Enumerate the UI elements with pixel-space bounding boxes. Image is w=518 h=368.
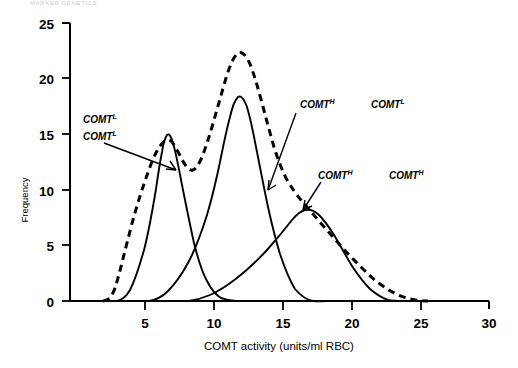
x-tick-label-5: 5 [141,316,149,331]
label-comt-h-right1: COMTH [318,169,353,181]
curve-comt-ll-solid [117,134,236,301]
label-comt-ll-line2-sup: L [112,130,116,137]
arrow-comt-hl [268,113,296,190]
chart-svg: 25 20 15 10 5 0 5 10 15 20 25 30 COMT ac… [0,0,518,368]
label-comt-h-right1-sup: H [347,169,353,176]
label-comt-h-right2-sup: H [418,169,424,176]
label-comt-h-middle: COMTH [300,98,335,110]
y-tick-label-20: 20 [39,72,54,87]
x-tick-label-25: 25 [413,316,429,331]
label-comt-ll-line1: COMTL [83,113,117,125]
label-comt-h-right2-text: COMT [389,170,419,181]
x-tick-label-15: 15 [275,316,291,331]
y-axis-title: Frequency [19,177,30,222]
arrow-comt-hl-head [268,180,276,190]
label-comt-h-right2: COMTH [389,169,424,181]
y-tick-labels: 25 20 15 10 5 0 [39,17,55,310]
y-tick-label-15: 15 [39,128,55,143]
figure-container: MARKER GENETICS 25 [0,0,518,368]
x-tick-label-30: 30 [481,316,496,331]
label-comt-h-right1-text: COMT [318,170,348,181]
x-tick-label-10: 10 [206,316,221,331]
y-tick-label-25: 25 [39,17,55,32]
label-comt-h-middle-sup: H [329,98,335,105]
label-comt-ll-line1-text: COMT [83,114,113,125]
label-comt-l-middle-text: COMT [371,99,401,110]
curves-group [103,52,428,301]
label-comt-h-middle-text: COMT [300,99,330,110]
curve-total-dashed [103,52,428,301]
arrow-comt-ll [104,143,176,170]
arrow-comt-hh [303,182,321,210]
curve-comt-hh-solid [189,210,403,301]
x-axis-title: COMT activity (units/ml RBC) [204,340,354,352]
label-comt-ll-line1-sup: L [112,113,116,120]
label-comt-ll-line2: COMTL [83,130,117,142]
x-tick-label-20: 20 [344,316,359,331]
faint-header-text: MARKER GENETICS [30,0,97,6]
axis-group [62,23,489,310]
label-comt-l-middle: COMTL [371,98,405,110]
y-tick-label-5: 5 [46,239,54,254]
label-comt-ll-line2-text: COMT [83,131,113,142]
y-tick-label-10: 10 [39,184,54,199]
x-tick-labels: 5 10 15 20 25 30 [141,316,496,331]
y-tick-label-0: 0 [46,295,54,310]
label-comt-l-middle-sup: L [400,98,404,105]
